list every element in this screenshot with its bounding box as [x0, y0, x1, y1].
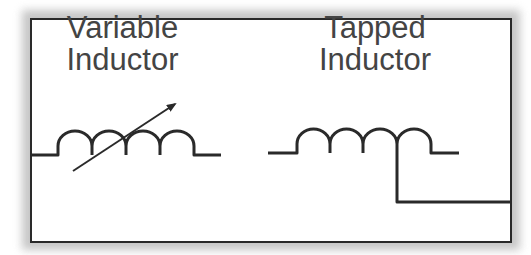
tapped-inductor-coil-icon [268, 129, 459, 153]
tapped-inductor-symbol [268, 129, 510, 202]
circuit-drawing [0, 0, 531, 255]
variable-inductor-coil-icon [30, 131, 221, 155]
variable-inductor-symbol [30, 104, 221, 171]
